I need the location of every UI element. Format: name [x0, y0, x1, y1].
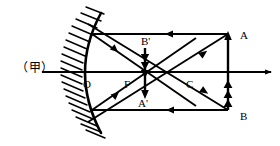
- center-of-curvature-label-c: C: [186, 79, 193, 90]
- vertex-label-o: O: [83, 79, 91, 90]
- object-arrow-barb-3: [224, 99, 233, 107]
- ray-b-parallel-arrowhead: [166, 107, 174, 114]
- object-bottom-label-b: B: [240, 111, 247, 122]
- image-arrow-barb-3: [141, 70, 149, 78]
- image-top-label-b-prime: B': [141, 36, 150, 47]
- optics-figure: （甲） O F C A B B' A': [0, 0, 280, 146]
- ray-a-parallel-arrowhead: [165, 31, 173, 38]
- ray-a-through-c: [88, 34, 228, 122]
- object-arrow-barb-2: [224, 90, 233, 98]
- principal-axis-end-taper: [265, 70, 272, 75]
- object-arrow-barb-1: [224, 80, 233, 88]
- focus-label-f: F: [124, 79, 130, 90]
- object-top-label-a: A: [240, 30, 248, 41]
- image-bottom-label-a-prime: A': [138, 98, 148, 109]
- figure-tag-label: （甲）: [16, 62, 54, 74]
